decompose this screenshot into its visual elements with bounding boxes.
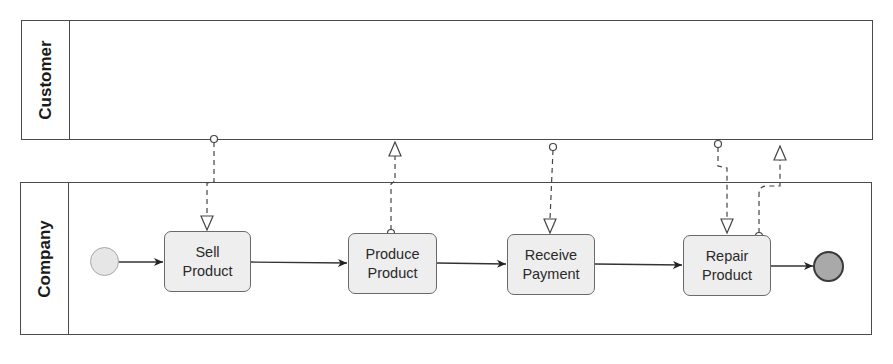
- task-label-line1: Receive: [522, 246, 579, 265]
- task-label-line1: Sell: [183, 243, 233, 262]
- pool-header-company: Company: [21, 183, 69, 334]
- pool-customer[interactable]: Customer: [21, 20, 873, 140]
- message-source-circle: [550, 144, 557, 151]
- task-receive-payment[interactable]: Receive Payment: [507, 234, 595, 295]
- message-arrowhead-customer-from-produce: [389, 142, 401, 156]
- pool-label-customer: Customer: [36, 40, 56, 119]
- task-repair-product[interactable]: Repair Product: [683, 235, 771, 296]
- task-label-line1: Produce: [365, 245, 419, 264]
- task-produce-product[interactable]: Produce Product: [348, 233, 437, 294]
- start-event[interactable]: [90, 247, 119, 276]
- task-label-line1: Repair: [702, 247, 752, 266]
- pool-header-customer: Customer: [22, 21, 70, 139]
- end-event[interactable]: [813, 251, 844, 282]
- message-source-circle: [715, 141, 722, 148]
- message-arrowhead-customer-from-repair: [774, 146, 786, 160]
- task-label-line2: Product: [183, 262, 233, 281]
- task-label-line2: Product: [702, 266, 752, 285]
- task-label-line2: Product: [365, 264, 419, 283]
- task-label-line2: Payment: [522, 265, 579, 284]
- task-sell-product[interactable]: Sell Product: [164, 231, 251, 292]
- pool-label-company: Company: [35, 220, 55, 297]
